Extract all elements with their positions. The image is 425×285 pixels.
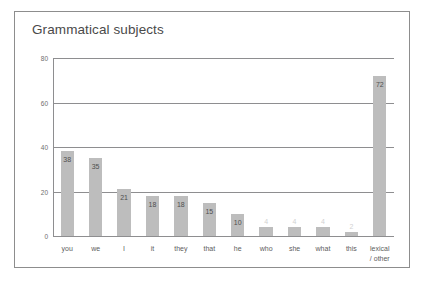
plot-area: 020406080 38you35we21I18it18they15that10… xyxy=(53,58,394,236)
bar-group[interactable]: 15that xyxy=(195,58,223,236)
gridline: 0 xyxy=(53,236,394,237)
bar-group[interactable]: 35we xyxy=(81,58,109,236)
bar-group[interactable]: 2this xyxy=(337,58,365,236)
bar[interactable] xyxy=(259,227,272,236)
bar-group[interactable]: 18it xyxy=(138,58,166,236)
bar-group[interactable]: 4she xyxy=(280,58,308,236)
bar[interactable] xyxy=(146,196,159,236)
bar-value-label: 2 xyxy=(337,223,365,230)
bar[interactable] xyxy=(288,227,301,236)
bar-group[interactable]: 4what xyxy=(309,58,337,236)
y-axis-tick-label: 40 xyxy=(41,144,48,151)
y-axis-tick-label: 60 xyxy=(41,99,48,106)
chart-figure: Grammatical subjects 020406080 38you35we… xyxy=(14,11,410,268)
y-axis-tick-label: 20 xyxy=(41,188,48,195)
bar-group[interactable]: 38you xyxy=(53,58,81,236)
bar-group[interactable]: 72lexical / other xyxy=(366,58,394,236)
bar[interactable] xyxy=(174,196,187,236)
bar-group[interactable]: 21I xyxy=(110,58,138,236)
bar[interactable] xyxy=(231,214,244,236)
bar[interactable] xyxy=(61,151,74,236)
bar[interactable] xyxy=(373,76,386,236)
x-axis-tick-label: lexical / other xyxy=(352,244,408,263)
bar-value-label: 4 xyxy=(309,218,337,225)
y-axis-tick-label: 80 xyxy=(41,55,48,62)
bar[interactable] xyxy=(316,227,329,236)
bar-group[interactable]: 10he xyxy=(224,58,252,236)
bar[interactable] xyxy=(345,232,358,236)
bar-group[interactable]: 4who xyxy=(252,58,280,236)
y-axis-tick-label: 0 xyxy=(44,233,48,240)
bars-group: 38you35we21I18it18they15that10he4who4she… xyxy=(53,58,394,236)
bar[interactable] xyxy=(89,158,102,236)
bar-value-label: 4 xyxy=(252,218,280,225)
bar-group[interactable]: 18they xyxy=(167,58,195,236)
bar-value-label: 4 xyxy=(280,218,308,225)
page-title: Grammatical subjects xyxy=(32,22,164,37)
bar[interactable] xyxy=(203,203,216,236)
bar[interactable] xyxy=(117,189,130,236)
